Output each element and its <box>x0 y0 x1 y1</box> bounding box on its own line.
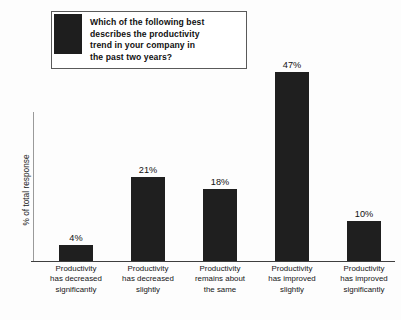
bar[interactable] <box>275 72 309 261</box>
bar-value-label: 21% <box>139 165 157 175</box>
legend-swatch-icon <box>54 14 82 54</box>
x-axis-line <box>31 261 395 262</box>
bar-value-label: 4% <box>69 233 82 243</box>
x-axis-tick-label: Productivityhas decreasedsignificantly <box>38 264 114 295</box>
x-axis-tick-label-line: has improved <box>326 274 401 284</box>
bar-group: 18% <box>184 60 256 261</box>
bar-group: 47% <box>256 60 328 261</box>
x-axis-tick-label-line: slightly <box>254 285 330 295</box>
x-axis-tick-label-line: remains about <box>182 274 258 284</box>
bar-value-label: 47% <box>283 60 301 70</box>
bar[interactable] <box>347 221 381 261</box>
bar[interactable] <box>131 177 165 261</box>
x-axis-tick-label-line: the same <box>182 285 258 295</box>
bar-value-label: 18% <box>211 177 229 187</box>
plot-area: 4%21%18%47%10% <box>34 60 395 261</box>
x-axis-tick-label-line: significantly <box>326 285 401 295</box>
bar[interactable] <box>203 189 237 261</box>
x-axis-tick-label-line: Productivity <box>326 264 401 274</box>
x-axis-tick-label-line: slightly <box>110 285 186 295</box>
x-axis-tick-label: Productivityhas improvedsignificantly <box>326 264 401 295</box>
y-axis-label: % of total response <box>21 135 31 245</box>
x-axis-tick-label-line: has decreased <box>38 274 114 284</box>
x-axis-tick-label-line: Productivity <box>110 264 186 274</box>
x-axis-tick-label-line: has improved <box>254 274 330 284</box>
x-axis-tick-label: Productivityhas decreasedslightly <box>110 264 186 295</box>
x-axis-tick-label-line: significantly <box>38 285 114 295</box>
chart-title-line: describes the productivity <box>90 29 242 41</box>
bar-value-label: 10% <box>355 209 373 219</box>
chart-title-line: Which of the following best <box>90 17 242 29</box>
bar-group: 4% <box>40 60 112 261</box>
bar-chart: Which of the following best describes th… <box>0 0 401 320</box>
bar-group: 21% <box>112 60 184 261</box>
bar[interactable] <box>59 245 93 261</box>
x-axis-tick-label-line: Productivity <box>182 264 258 274</box>
x-axis-category-labels: Productivityhas decreasedsignificantlyPr… <box>34 264 395 314</box>
x-axis-tick-label: Productivityhas improvedslightly <box>254 264 330 295</box>
x-axis-tick-label-line: has decreased <box>110 274 186 284</box>
x-axis-tick-label-line: Productivity <box>254 264 330 274</box>
x-axis-tick-label: Productivityremains aboutthe same <box>182 264 258 295</box>
chart-title-line: trend in your company in <box>90 40 242 52</box>
bar-group: 10% <box>328 60 400 261</box>
x-axis-tick-label-line: Productivity <box>38 264 114 274</box>
